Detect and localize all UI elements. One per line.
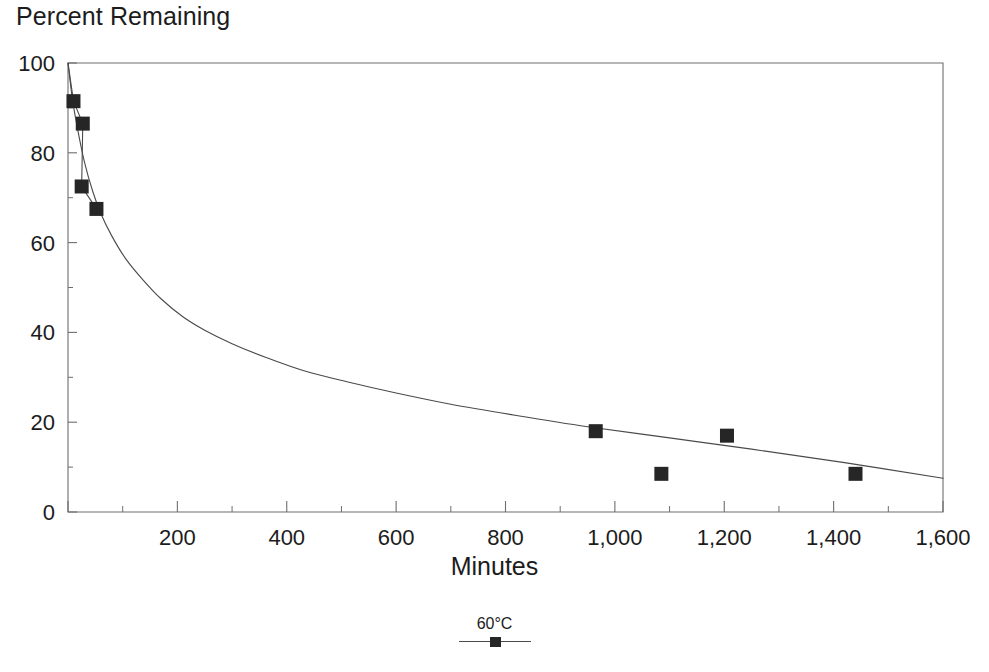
data-point-marker: [654, 467, 668, 481]
x-tick-label: 600: [378, 525, 415, 550]
legend-label-60c: 60°C: [0, 614, 989, 634]
tick-label-layer: 0204060801002004006008001,0001,2001,4001…: [18, 51, 970, 550]
y-tick-label: 0: [43, 500, 55, 525]
fit-curve: [68, 63, 943, 478]
data-point-marker: [89, 202, 103, 216]
data-point-marker: [849, 467, 863, 481]
data-point-marker: [720, 429, 734, 443]
x-tick-label: 200: [159, 525, 196, 550]
legend-square-marker-icon: [490, 637, 501, 647]
x-tick-label: 1,000: [587, 525, 642, 550]
chart-figure: Percent Remaining 0204060801002004006008…: [0, 0, 989, 672]
legend-key: [459, 635, 531, 649]
fit-curve-layer: [68, 63, 943, 478]
y-tick-label: 20: [31, 410, 55, 435]
data-point-marker: [66, 94, 80, 108]
y-tick-label: 40: [31, 320, 55, 345]
data-point-marker: [75, 179, 89, 193]
x-tick-label: 1,400: [806, 525, 861, 550]
y-tick-label: 60: [31, 231, 55, 256]
x-tick-label: 400: [268, 525, 305, 550]
x-tick-label: 1,600: [915, 525, 970, 550]
y-tick-label: 80: [31, 141, 55, 166]
x-tick-label: 1,200: [697, 525, 752, 550]
x-tick-label: 800: [487, 525, 524, 550]
data-point-marker: [589, 424, 603, 438]
chart-legend: 60°C: [0, 614, 989, 653]
axis-layer: [68, 63, 943, 512]
y-tick-label: 100: [18, 51, 55, 76]
data-point-marker: [76, 117, 90, 131]
x-axis-title: Minutes: [0, 552, 989, 581]
data-marker-layer: [66, 94, 862, 481]
